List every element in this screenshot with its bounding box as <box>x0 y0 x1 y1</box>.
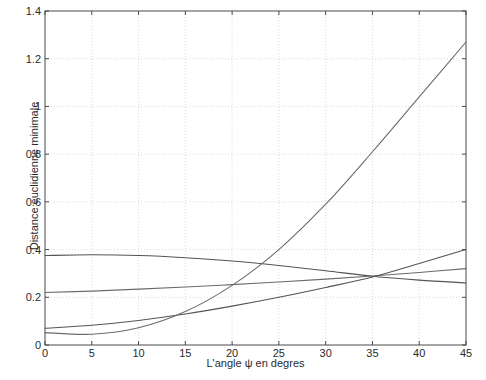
y-tick-label: 0 <box>7 339 41 351</box>
data-series-3 <box>45 250 466 329</box>
x-axis-title: L'angle ψ en degres <box>45 357 466 369</box>
data-series-2 <box>45 269 466 293</box>
y-tick-label: 1.4 <box>7 5 41 17</box>
chart-figure: 00.20.40.60.811.21.4 051015202530354045 … <box>0 0 486 380</box>
y-axis-title: Distance euclidienne minimale <box>28 46 40 306</box>
chart-plot-area <box>0 0 486 380</box>
